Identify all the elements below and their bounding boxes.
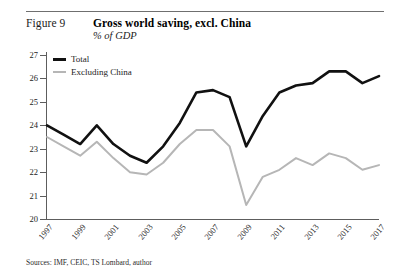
source-note: Sources: IMF, CEIC, TS Lombard, author: [26, 258, 152, 267]
legend-item-total[interactable]: Total: [53, 53, 132, 65]
legend-swatch-total: [53, 58, 66, 61]
figure-page: Figure 9 Gross world saving, excl. China…: [0, 0, 399, 275]
series-line-total: [47, 71, 379, 162]
legend-swatch-excluding-china: [53, 71, 66, 74]
legend-label-total: Total: [71, 54, 89, 64]
series-line-excluding-china: [47, 130, 379, 205]
legend-item-excluding-china[interactable]: Excluding China: [53, 66, 132, 78]
legend-label-excluding-china: Excluding China: [71, 67, 132, 77]
chart-lines: [0, 0, 399, 275]
chart-legend: Total Excluding China: [53, 53, 132, 79]
